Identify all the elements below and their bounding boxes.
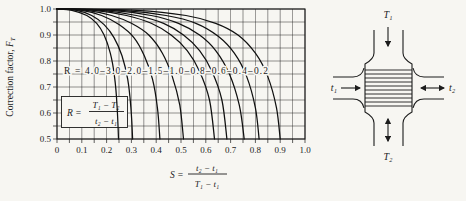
T2-label: T₂ [383, 151, 393, 162]
x-tick-label: 0.9 [275, 145, 287, 155]
y-tick-label: 0.5 [40, 134, 52, 144]
y-tick-label: 1.0 [40, 4, 52, 14]
channel-wall-right-bottom [413, 99, 444, 108]
T1-label: T₁ [383, 9, 392, 20]
x-tick-label: 0.4 [151, 145, 163, 155]
s-formula-lhs: S= [170, 170, 183, 180]
channel-wall-left-top [333, 68, 364, 77]
t2-label: t₂ [449, 82, 456, 93]
duct-wall-left [365, 30, 374, 146]
x-tick-label: 0.1 [76, 145, 87, 155]
figure-canvas: Correction factor, FT R= T₁ − T₂ t₂ − t₁… [0, 0, 466, 201]
t1-label: t₁ [331, 82, 337, 93]
channel-wall-right-top [413, 68, 444, 77]
y-axis-label: Correction factor, FT [5, 36, 17, 116]
duct-wall-right [403, 30, 412, 146]
r-definition-denominator: t₂ − t₁ [95, 116, 117, 126]
x-tick-label: 0.2 [101, 145, 112, 155]
s-formula-numerator: t₂ − t₁ [196, 163, 218, 173]
x-tick-label: 0.8 [250, 145, 262, 155]
y-tick-label: 0.8 [40, 56, 52, 66]
x-tick-label: 0.5 [175, 145, 187, 155]
s-formula-denominator: T₁ − t₁ [195, 179, 219, 189]
y-tick-label: 0.9 [40, 30, 52, 40]
axis-tick-labels: 00.10.20.30.40.50.60.70.80.91.01.00.90.8… [40, 4, 311, 155]
tube-bank-hatch [365, 70, 412, 106]
r-definition-numerator: T₁ − T₂ [93, 100, 120, 110]
x-tick-label: 0.6 [200, 145, 212, 155]
x-tick-label: 0.3 [126, 145, 138, 155]
y-tick-label: 0.6 [40, 108, 52, 118]
x-axis-formula: S= t₂ − t₁ T₁ − t₁ [170, 163, 227, 189]
heat-exchanger-diagram [333, 27, 444, 146]
x-tick-label: 0.7 [225, 145, 237, 155]
channel-wall-left-bottom [333, 99, 364, 108]
x-tick-label: 1.0 [299, 145, 311, 155]
x-tick-label: 0 [55, 145, 60, 155]
y-tick-label: 0.7 [40, 82, 52, 92]
correction-factor-figure: Correction factor, FT R= T₁ − T₂ t₂ − t₁… [0, 0, 466, 201]
curve-labels-row: R = 4.0–3.0–2.0–1.5–1.0–0.8–0.6–0.4–0.2 [64, 66, 268, 76]
